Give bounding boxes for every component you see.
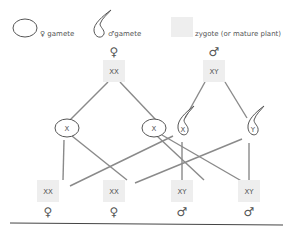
line-egg1-xx2 <box>72 136 127 180</box>
line-egg1-xx1 <box>63 140 64 180</box>
line-spermy-xx2 <box>135 139 242 183</box>
offspring-4-sex-symbol: ♂ <box>244 205 255 219</box>
baseline-divider <box>10 223 283 225</box>
offspring-2-genotype: XX <box>109 188 119 196</box>
father-genotype: XY <box>209 68 219 76</box>
zygote-legend-icon <box>171 17 193 37</box>
offspring-2-sex-symbol: ♀ <box>110 205 119 219</box>
sperm-x-chromosome: X <box>181 126 186 134</box>
mother-sex-symbol: ♀ <box>110 45 119 59</box>
egg-2-chromosome: X <box>152 125 157 133</box>
offspring-4-genotype: XY <box>244 188 254 196</box>
line-mother-egg2 <box>120 82 156 120</box>
offspring-3-genotype: XY <box>177 188 187 196</box>
line-spermx-xx1 <box>70 136 173 186</box>
egg-1-chromosome: X <box>65 125 70 133</box>
mother-genotype: XX <box>109 68 119 76</box>
legend-zygote: zygote (or mature plant) <box>195 30 281 38</box>
female-gamete-legend-icon <box>13 19 37 37</box>
sex-determination-diagram: ♀ gamete ♂gamete zygote (or mature plant… <box>0 0 293 231</box>
offspring-1-sex-symbol: ♀ <box>44 205 53 219</box>
offspring-3-sex-symbol: ♂ <box>177 205 188 219</box>
line-father-spermy <box>225 82 247 118</box>
offspring-1-genotype: XX <box>43 188 53 196</box>
father-sex-symbol: ♂ <box>209 45 220 59</box>
legend-male-gamete: ♂gamete <box>108 30 141 38</box>
sperm-y-chromosome: Y <box>250 126 256 134</box>
line-mother-egg1 <box>70 82 108 120</box>
legend-female-gamete: ♀ gamete <box>40 30 74 38</box>
